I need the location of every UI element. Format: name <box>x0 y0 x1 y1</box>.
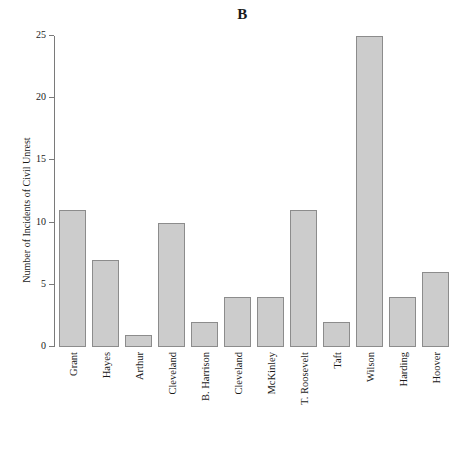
x-tick-label-slot: McKinley <box>254 352 287 456</box>
x-axis-tick-labels: GrantHayesArthurClevelandB. HarrisonClev… <box>55 352 450 456</box>
bar <box>257 297 284 347</box>
x-tick-label-slot: Arthur <box>122 352 155 456</box>
y-tick-label: 25 <box>36 28 46 41</box>
bar-slot <box>386 36 419 347</box>
bar-slot <box>122 36 155 347</box>
y-tick-label: 15 <box>36 152 46 165</box>
bar-slot <box>221 36 254 347</box>
y-tick: 15 <box>49 159 54 160</box>
y-tick: 0 <box>49 346 54 347</box>
x-tick-label: Cleveland <box>166 352 177 395</box>
y-axis-label-text: Number of Incidents of Civil Unrest <box>21 110 32 310</box>
y-axis-label: Number of Incidents of Civil Unrest <box>9 0 20 110</box>
y-tick: 10 <box>49 222 54 223</box>
bar <box>356 36 383 347</box>
y-tick: 5 <box>49 284 54 285</box>
x-tick-label: McKinley <box>265 352 276 395</box>
plot-area: 0510152025 <box>54 36 450 347</box>
bar <box>125 335 152 347</box>
bar-slot <box>320 36 353 347</box>
x-tick-label-slot: Wilson <box>353 352 386 456</box>
chart-title-text: B <box>237 6 248 23</box>
y-tick-label: 20 <box>36 90 46 103</box>
x-tick-label-slot: Grant <box>56 352 89 456</box>
bar-slot <box>89 36 122 347</box>
bar <box>92 260 119 347</box>
x-tick-label-slot: Harding <box>386 352 419 456</box>
x-tick-label-slot: Hoover <box>419 352 452 456</box>
bar-slot <box>419 36 452 347</box>
bar <box>422 272 449 347</box>
bar-slot <box>287 36 320 347</box>
bar-slot <box>254 36 287 347</box>
x-tick-label: Hoover <box>430 352 441 384</box>
bar <box>59 210 86 347</box>
y-tick: 20 <box>49 97 54 98</box>
x-tick-label: Grant <box>67 352 78 376</box>
x-tick-label: B. Harrison <box>199 352 210 401</box>
bar-chart-figure: B Number of Incidents of Civil Unrest 05… <box>0 0 457 458</box>
x-tick-label-slot: T. Roosevelt <box>287 352 320 456</box>
x-tick-label-slot: Hayes <box>89 352 122 456</box>
x-tick-label: Arthur <box>133 352 144 380</box>
y-tick-label: 5 <box>41 277 46 290</box>
x-tick-label-slot: B. Harrison <box>188 352 221 456</box>
bar <box>224 297 251 347</box>
x-tick-label: Harding <box>397 352 408 386</box>
bar <box>191 322 218 347</box>
x-tick-label: Cleveland <box>232 352 243 395</box>
bar <box>158 223 185 347</box>
bar <box>323 322 350 347</box>
bar-slot <box>188 36 221 347</box>
chart-title: B <box>0 6 457 23</box>
x-tick-label-slot: Taft <box>320 352 353 456</box>
bar-series <box>55 36 450 347</box>
x-tick-label-slot: Cleveland <box>221 352 254 456</box>
bar-slot <box>155 36 188 347</box>
bar-slot <box>353 36 386 347</box>
y-tick: 25 <box>49 35 54 36</box>
x-tick-label: T. Roosevelt <box>298 352 309 405</box>
x-tick-label: Wilson <box>364 352 375 382</box>
y-tick-label: 0 <box>41 339 46 352</box>
bar-slot <box>56 36 89 347</box>
x-tick-label: Taft <box>331 352 342 369</box>
x-tick-label-slot: Cleveland <box>155 352 188 456</box>
bar <box>290 210 317 347</box>
x-tick-label: Hayes <box>100 352 111 378</box>
y-tick-label: 10 <box>36 215 46 228</box>
bar <box>389 297 416 347</box>
